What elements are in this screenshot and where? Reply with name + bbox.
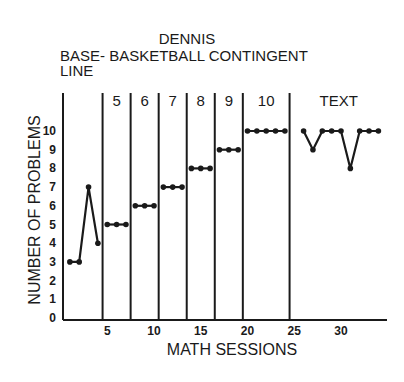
data-point bbox=[86, 184, 92, 190]
phase-labels: 5678910TEXT bbox=[112, 92, 357, 109]
y-tick-label: 9 bbox=[49, 143, 56, 157]
chart-subtitle-line-1: BASE- BASKETBALL CONTINGENT bbox=[60, 47, 308, 64]
x-tick-label: 30 bbox=[334, 324, 348, 338]
data-point bbox=[67, 259, 73, 265]
data-point bbox=[226, 147, 232, 153]
chart-subtitle-line-2: LINE bbox=[60, 62, 93, 79]
data-point bbox=[282, 128, 288, 134]
data-point bbox=[376, 128, 382, 134]
data-point bbox=[151, 203, 157, 209]
phase-series bbox=[104, 222, 128, 228]
data-point bbox=[245, 128, 251, 134]
y-tick-label: 10 bbox=[43, 124, 57, 138]
x-tick-label: 20 bbox=[241, 324, 255, 338]
data-point bbox=[133, 203, 139, 209]
x-axis-label: MATH SESSIONS bbox=[167, 341, 297, 358]
data-point bbox=[338, 128, 344, 134]
x-tick-label: 25 bbox=[288, 324, 302, 338]
data-point bbox=[320, 128, 326, 134]
y-tick-label: 3 bbox=[49, 255, 56, 269]
phase-series bbox=[67, 184, 101, 264]
data-point bbox=[189, 166, 195, 172]
chart-title: DENNIS bbox=[159, 30, 216, 47]
phase-series bbox=[245, 128, 288, 134]
phase-label: 6 bbox=[140, 92, 148, 109]
data-point bbox=[254, 128, 260, 134]
data-point bbox=[217, 147, 223, 153]
data-point bbox=[104, 222, 110, 228]
data-point bbox=[329, 128, 335, 134]
y-tick-label: 5 bbox=[49, 218, 56, 232]
data-point bbox=[207, 166, 213, 172]
y-tick-label: 0 bbox=[49, 311, 56, 325]
phase-series bbox=[301, 128, 381, 171]
data-point bbox=[179, 184, 185, 190]
data-point bbox=[357, 128, 363, 134]
data-point bbox=[95, 240, 101, 246]
data-point bbox=[170, 184, 176, 190]
y-tick-label: 7 bbox=[49, 180, 56, 194]
phase-series bbox=[189, 166, 213, 172]
data-point bbox=[198, 166, 204, 172]
x-tick-label: 5 bbox=[104, 324, 111, 338]
data-point bbox=[273, 128, 279, 134]
x-tick-label: 15 bbox=[194, 324, 208, 338]
data-point bbox=[263, 128, 269, 134]
x-tick-labels: 51015202530 bbox=[104, 324, 348, 338]
data-point bbox=[301, 128, 307, 134]
chart: DENNIS BASE- BASKETBALL CONTINGENT LINE … bbox=[0, 0, 404, 382]
data-point bbox=[76, 259, 82, 265]
y-tick-label: 2 bbox=[49, 274, 56, 288]
y-tick-label: 6 bbox=[49, 199, 56, 213]
phase-label: 7 bbox=[169, 92, 177, 109]
phase-series bbox=[161, 184, 185, 190]
data-point bbox=[123, 222, 129, 228]
phase-label: 10 bbox=[258, 92, 275, 109]
phase-label: 8 bbox=[197, 92, 205, 109]
phase-series bbox=[133, 203, 157, 209]
data-point bbox=[348, 166, 354, 172]
data-point bbox=[366, 128, 372, 134]
phase-series bbox=[217, 147, 241, 153]
data-point bbox=[142, 203, 148, 209]
y-axis-label: NUMBER OF PROBLEMS bbox=[26, 115, 43, 304]
y-tick-label: 8 bbox=[49, 161, 56, 175]
data-point bbox=[161, 184, 167, 190]
y-tick-label: 4 bbox=[49, 236, 56, 250]
data-point bbox=[310, 147, 316, 153]
data-point bbox=[235, 147, 241, 153]
y-tick-label: 1 bbox=[49, 292, 56, 306]
series-line bbox=[70, 187, 98, 262]
data-point bbox=[114, 222, 120, 228]
phase-label: 5 bbox=[112, 92, 120, 109]
x-tick-label: 10 bbox=[147, 324, 161, 338]
data-series bbox=[67, 128, 381, 265]
phase-label: TEXT bbox=[319, 92, 357, 109]
phase-label: 9 bbox=[225, 92, 233, 109]
phase-change-lines bbox=[103, 93, 290, 320]
y-tick-labels: 012345678910 bbox=[43, 124, 57, 325]
